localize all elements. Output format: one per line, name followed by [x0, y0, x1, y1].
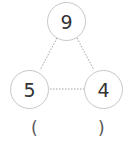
answer-paren-close: ): [98, 118, 105, 138]
edge-top-right: [77, 38, 94, 70]
node-left: 5: [10, 70, 49, 109]
node-left-value: 5: [23, 79, 35, 101]
node-top-value: 9: [60, 11, 72, 33]
answer-paren-open: (: [31, 118, 38, 138]
node-right-value: 4: [97, 79, 109, 101]
edge-top-left: [40, 38, 57, 70]
node-top: 9: [47, 2, 86, 41]
node-right: 4: [84, 70, 123, 109]
